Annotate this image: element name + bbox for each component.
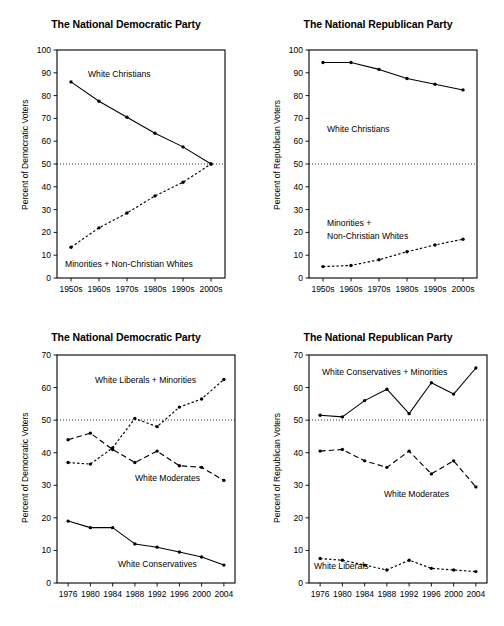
x-tick-label: 1996 <box>170 589 189 599</box>
series-label-white-liberals-minorities: White Liberals + Minorities <box>95 375 196 385</box>
y-tick-label: 100 <box>37 45 51 55</box>
series-label-minorities-line2: Non-Christian Whites <box>327 231 408 241</box>
data-point <box>200 466 203 469</box>
data-point <box>433 83 436 86</box>
x-tick-label: 1990s <box>423 284 446 294</box>
data-point <box>341 448 344 451</box>
series-line-0 <box>323 63 463 90</box>
y-tick-label: 60 <box>294 136 304 146</box>
data-point <box>452 568 455 571</box>
y-ticks-top-right: 0102030405060708090100 <box>289 45 309 283</box>
data-point <box>133 542 136 545</box>
y-tick-label: 70 <box>294 350 304 360</box>
data-point <box>407 449 410 452</box>
data-point <box>385 388 388 391</box>
data-point <box>385 568 388 571</box>
data-point <box>321 61 324 64</box>
data-point <box>125 116 128 119</box>
series-line-1 <box>320 449 476 486</box>
data-point <box>349 264 352 267</box>
data-point <box>321 265 324 268</box>
data-point <box>200 397 203 400</box>
y-tick-label: 50 <box>42 159 52 169</box>
y-tick-label: 20 <box>42 227 52 237</box>
data-point <box>433 243 436 246</box>
data-point <box>461 238 464 241</box>
x-tick-label: 2004 <box>214 589 233 599</box>
series-top-left <box>69 80 212 249</box>
data-point <box>407 559 410 562</box>
series-line-1 <box>71 164 211 247</box>
data-point <box>178 405 181 408</box>
x-tick-label: 1950s <box>59 284 82 294</box>
x-tick-label: 1980s <box>143 284 166 294</box>
x-ticks-bottom-right: 19761980198419881992199620002004 <box>311 583 486 599</box>
data-point <box>181 145 184 148</box>
x-ticks-top-left: 1950s1960s1970s1980s1990s2000s <box>59 278 222 294</box>
y-tick-label: 60 <box>294 383 304 393</box>
plot-top-right: 0102030405060708090100 1950s1960s1970s19… <box>252 0 504 313</box>
data-point <box>111 526 114 529</box>
data-point <box>66 438 69 441</box>
series-label-minorities-nonchristian: Minorities + Non-Christian Whites <box>65 259 193 269</box>
data-point <box>377 258 380 261</box>
data-point <box>89 526 92 529</box>
y-tick-label: 40 <box>294 182 304 192</box>
y-tick-label: 20 <box>42 513 52 523</box>
data-point <box>430 567 433 570</box>
series-line-0 <box>68 379 224 464</box>
series-label-white-christians: White Christians <box>327 124 390 134</box>
y-tick-label: 50 <box>294 159 304 169</box>
x-tick-label: 1976 <box>311 589 330 599</box>
data-point <box>385 466 388 469</box>
data-point <box>461 88 464 91</box>
series-label-white-moderates: White Moderates <box>384 489 449 499</box>
y-tick-label: 10 <box>294 545 304 555</box>
series-label-white-liberals: White Liberals <box>314 561 368 571</box>
x-tick-label: 1960s <box>339 284 362 294</box>
y-ticks-bottom-right: 010203040506070 <box>294 350 309 588</box>
data-point <box>452 459 455 462</box>
data-point <box>341 415 344 418</box>
x-tick-label: 1988 <box>377 589 396 599</box>
y-tick-label: 20 <box>294 513 304 523</box>
y-tick-label: 50 <box>42 415 52 425</box>
x-tick-label: 1950s <box>311 284 334 294</box>
data-point <box>89 431 92 434</box>
data-point <box>474 570 477 573</box>
data-point <box>209 162 212 165</box>
y-tick-label: 10 <box>42 545 52 555</box>
x-tick-label: 1980s <box>395 284 418 294</box>
y-tick-label: 90 <box>42 68 52 78</box>
data-point <box>452 392 455 395</box>
y-tick-label: 80 <box>42 91 52 101</box>
data-point <box>97 226 100 229</box>
data-point <box>363 459 366 462</box>
x-tick-label: 1976 <box>59 589 78 599</box>
y-tick-label: 30 <box>294 480 304 490</box>
x-tick-label: 2000s <box>451 284 474 294</box>
series-label-white-moderates: White Moderates <box>135 473 200 483</box>
data-point <box>178 464 181 467</box>
y-tick-label: 60 <box>42 136 52 146</box>
x-tick-label: 2004 <box>466 589 485 599</box>
x-tick-label: 2000 <box>192 589 211 599</box>
data-point <box>377 68 380 71</box>
y-tick-label: 70 <box>42 113 52 123</box>
chart-panel-top-left: The National Democratic Party Percent of… <box>0 0 252 313</box>
plot-bottom-left: 010203040506070 197619801984198819921996… <box>0 313 252 626</box>
x-tick-label: 1984 <box>355 589 374 599</box>
data-point <box>111 448 114 451</box>
plot-bottom-right: 010203040506070 197619801984198819921996… <box>252 313 504 626</box>
data-point <box>66 461 69 464</box>
data-point <box>155 449 158 452</box>
y-tick-label: 80 <box>294 91 304 101</box>
y-tick-label: 50 <box>294 415 304 425</box>
data-point <box>181 181 184 184</box>
data-point <box>69 246 72 249</box>
x-tick-label: 1980 <box>333 589 352 599</box>
data-point <box>69 80 72 83</box>
data-point <box>474 366 477 369</box>
series-label-white-conservatives: White Conservatives <box>118 559 197 569</box>
data-point <box>474 485 477 488</box>
